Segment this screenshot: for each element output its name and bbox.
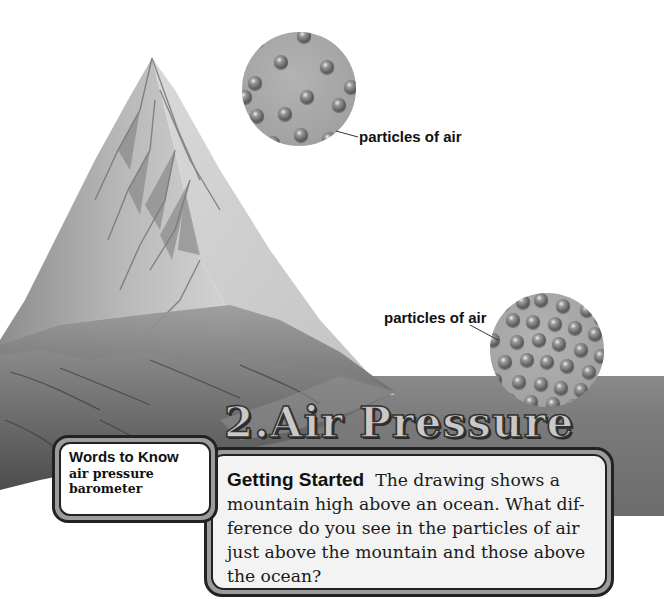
- getting-started-line-3: ference do you see in the particles of a…: [227, 518, 580, 538]
- words-to-know-heading: Words to Know: [69, 448, 209, 466]
- air-particle: [300, 90, 314, 104]
- air-particle: [540, 355, 554, 369]
- getting-started-line-4: just above the mountain and those above: [227, 542, 585, 562]
- air-particle: [274, 55, 288, 69]
- air-particle: [510, 335, 524, 349]
- air-particle: [552, 337, 566, 351]
- air-particle: [560, 359, 574, 373]
- air-particle: [582, 365, 596, 379]
- air-particle: [248, 76, 262, 90]
- air-particle: [516, 295, 530, 309]
- textbook-page: particles of air particles of air 2.Air …: [0, 0, 664, 616]
- getting-started-heading: Getting Started: [227, 469, 364, 490]
- air-particle: [568, 321, 582, 335]
- air-particle: [250, 34, 264, 48]
- lesson-number: 2.: [224, 398, 270, 447]
- getting-started-line-1: The drawing shows a: [375, 470, 560, 490]
- air-particle: [512, 375, 526, 389]
- air-particle: [590, 381, 604, 395]
- words-to-know-content: Words to Know air pressure barometer: [59, 442, 211, 516]
- air-particle: [574, 343, 588, 357]
- lesson-title: 2.Air Pressure: [224, 398, 574, 447]
- air-particle: [580, 303, 594, 317]
- air-particle: [534, 377, 548, 391]
- air-particle: [322, 132, 336, 146]
- air-particle: [332, 98, 346, 112]
- getting-started-box: Getting Started The drawing shows a moun…: [204, 447, 614, 597]
- air-particle: [506, 313, 520, 327]
- air-particle: [588, 327, 602, 341]
- words-to-know-box: Words to Know air pressure barometer: [52, 435, 218, 523]
- vocab-term-air-pressure[interactable]: air pressure: [69, 466, 209, 481]
- air-particle: [548, 317, 562, 331]
- air-particle: [554, 381, 568, 395]
- air-particle: [278, 107, 292, 121]
- particles-circle-ocean: [490, 293, 604, 407]
- air-particle: [556, 299, 570, 313]
- air-particle: [344, 80, 356, 94]
- getting-started-content: Getting Started The drawing shows a moun…: [211, 454, 607, 590]
- air-particle: [250, 109, 264, 123]
- air-particle: [534, 293, 548, 307]
- air-particle: [266, 136, 280, 146]
- air-particle: [496, 297, 510, 311]
- air-particle: [294, 128, 308, 142]
- particles-label-mountain: particles of air: [359, 128, 462, 145]
- getting-started-line-2: mountain high above an ocean. What dif-: [227, 494, 585, 514]
- air-particle: [520, 353, 534, 367]
- air-particle: [526, 315, 540, 329]
- lesson-title-text: Air Pressure: [270, 398, 574, 447]
- air-particle: [594, 311, 604, 325]
- air-particle: [532, 333, 546, 347]
- air-particle: [320, 60, 334, 74]
- getting-started-paragraph: Getting Started The drawing shows a moun…: [227, 468, 595, 588]
- air-particle: [242, 90, 252, 104]
- air-particle: [594, 349, 604, 363]
- air-particle: [297, 32, 311, 43]
- getting-started-line-5: the ocean?: [227, 566, 321, 586]
- particles-label-ocean: particles of air: [384, 309, 487, 326]
- vocab-term-barometer[interactable]: barometer: [69, 481, 209, 496]
- air-particle: [498, 355, 512, 369]
- air-particle: [574, 383, 588, 397]
